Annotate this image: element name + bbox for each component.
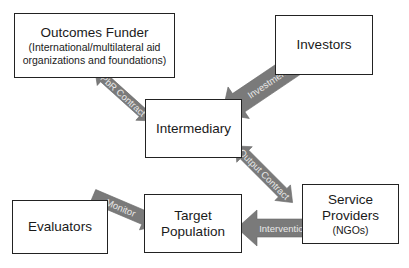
outcomes-funder-subtitle-line2: organizations and foundations): [23, 54, 167, 67]
intermediary-title: Intermediary: [156, 121, 231, 137]
outcomes-funder-node: Outcomes Funder (International/multilate…: [14, 13, 175, 78]
intervention-arrow: Intervention: [237, 210, 311, 246]
investors-node: Investors: [275, 15, 373, 75]
output-contract-label: Output Contract: [237, 147, 292, 202]
investors-title: Investors: [297, 37, 352, 53]
service-providers-node: Service Providers (NGOs): [302, 184, 399, 244]
target-population-title-line2: Population: [161, 224, 225, 240]
target-population-node: Target Population: [144, 194, 242, 253]
intermediary-node: Intermediary: [145, 99, 242, 158]
evaluators-node: Evaluators: [12, 200, 108, 254]
evaluators-title: Evaluators: [28, 219, 92, 235]
service-providers-subtitle: (NGOs): [332, 224, 368, 237]
service-providers-title-line1: Service: [328, 192, 373, 208]
target-population-title-line1: Target: [174, 208, 212, 224]
outcomes-funder-title: Outcomes Funder: [40, 25, 148, 41]
outcomes-funder-subtitle-line1: (International/multilateral aid: [29, 41, 161, 54]
pbr-contract-label: PbR Contract: [98, 72, 148, 119]
service-providers-title-line2: Providers: [322, 208, 379, 224]
